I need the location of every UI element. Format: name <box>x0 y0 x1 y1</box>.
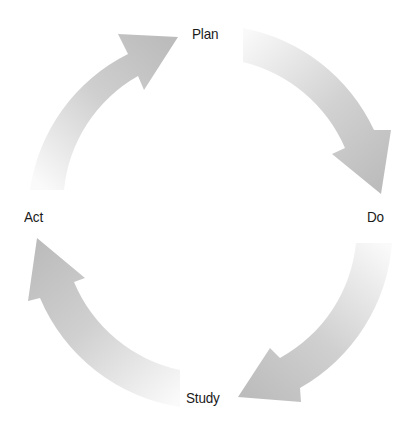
arrow-plan-to-do <box>243 28 391 194</box>
stage-label-act: Act <box>24 208 43 225</box>
arrow-study-to-act <box>28 238 180 407</box>
arrow-act-to-plan <box>30 34 178 190</box>
arrow-do-to-study <box>238 243 392 402</box>
pdsa-cycle-diagram: Plan Do Study Act <box>0 0 419 430</box>
cycle-arrows <box>0 0 419 430</box>
stage-label-plan: Plan <box>192 25 218 42</box>
stage-label-study: Study <box>186 389 220 406</box>
stage-label-do: Do <box>367 208 384 225</box>
